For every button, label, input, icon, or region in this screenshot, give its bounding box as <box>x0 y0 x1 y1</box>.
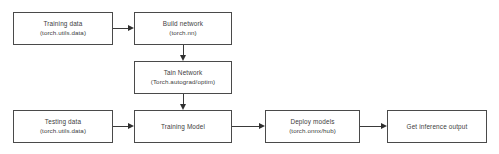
node-training-model-title: Training Model <box>161 123 205 131</box>
node-get-inference-output[interactable]: Get inference output <box>387 110 487 143</box>
node-build-network-title: Build network <box>163 20 203 28</box>
edge-training-data-to-build-network-line <box>113 28 129 29</box>
node-build-network-subtitle: (torch.nn) <box>169 29 196 37</box>
node-training-data-title: Training data <box>43 20 82 28</box>
node-training-data-subtitle: (torch.utils.data) <box>40 29 86 37</box>
node-training-model[interactable]: Training Model <box>134 110 232 143</box>
edge-training-model-to-deploy-models-line <box>232 126 259 127</box>
node-tain-network-subtitle: (Torch.autograd/optim) <box>151 78 215 86</box>
edge-testing-data-to-training-model-line <box>113 126 129 127</box>
node-testing-data[interactable]: Testing data (torch.utils.data) <box>13 110 113 143</box>
node-tain-network-title: Tain Network <box>164 69 203 77</box>
node-deploy-models-subtitle: (torch.onnx/hub) <box>289 127 336 135</box>
node-deploy-models-title: Deploy models <box>290 118 334 126</box>
flowchart-canvas: Training data (torch.utils.data) Build n… <box>0 0 499 154</box>
node-deploy-models[interactable]: Deploy models (torch.onnx/hub) <box>265 110 360 143</box>
node-training-data[interactable]: Training data (torch.utils.data) <box>13 12 113 45</box>
node-tain-network[interactable]: Tain Network (Torch.autograd/optim) <box>134 61 232 94</box>
node-testing-data-title: Testing data <box>45 118 81 126</box>
node-build-network[interactable]: Build network (torch.nn) <box>134 12 232 45</box>
edge-deploy-models-to-get-inference-output-line <box>360 126 381 127</box>
node-testing-data-subtitle: (torch.utils.data) <box>40 127 86 135</box>
node-get-inference-output-title: Get inference output <box>407 123 468 131</box>
